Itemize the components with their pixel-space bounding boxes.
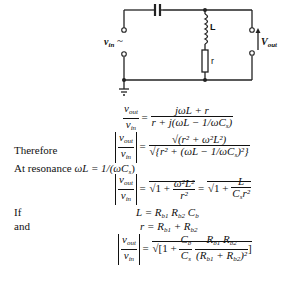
input-voltage-label: vin bbox=[104, 36, 114, 49]
inductor-label: L bbox=[210, 22, 216, 32]
final-magnitude-equation: voutvin = √[1 + CbCs Rb1 Rb2(Rb1 + Rb2)²… bbox=[118, 234, 252, 265]
output-voltage-label: Vout bbox=[261, 36, 277, 49]
if-label: If bbox=[14, 206, 21, 218]
magnitude-equation: voutvin = √(r² + ω²L²)√{r² + (ωL − 1/ωCs… bbox=[115, 132, 250, 163]
circuit-diagram bbox=[0, 0, 296, 100]
transfer-function-equation: voutvin = jωL + rr + j(ωL − 1/ωCs) bbox=[123, 103, 233, 134]
resonance-magnitude-equation: voutvin = √1 + ω²L²r² = √1 + LCsr² bbox=[115, 174, 251, 205]
and-label: and bbox=[14, 220, 30, 232]
resistor-label: r bbox=[211, 56, 214, 66]
therefore-label: Therefore bbox=[14, 144, 57, 156]
ac-source-icon: ~ bbox=[117, 34, 123, 46]
